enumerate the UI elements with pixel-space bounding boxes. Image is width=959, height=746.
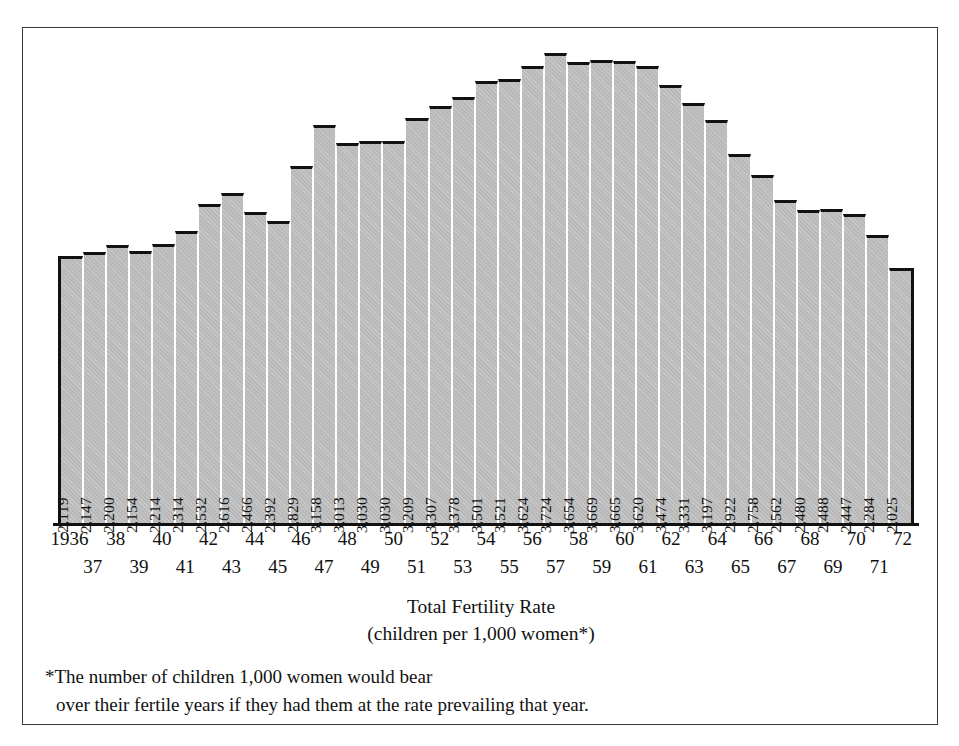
x-tick-1971: 71 (853, 556, 905, 578)
bar-1970: 2,447 (843, 214, 866, 523)
footnote: *The number of children 1,000 women woul… (45, 663, 905, 719)
footnote-line-2: over their fertile years if they had the… (45, 691, 905, 719)
bar-1953: 3,378 (452, 97, 475, 523)
bar-1957: 3,724 (544, 53, 567, 523)
bar-value-label: 2,314 (169, 497, 187, 533)
bar-value-label: 3,307 (422, 497, 440, 533)
bar-1948: 3,013 (336, 143, 359, 523)
bar-value-label: 3,030 (353, 497, 371, 533)
bar-1969: 2,488 (820, 209, 843, 523)
bar-value-label: 3,624 (514, 497, 532, 533)
bar-1950: 3,030 (382, 141, 405, 523)
bar-1956: 3,624 (521, 66, 544, 523)
bar-value-label: 2,829 (284, 497, 302, 533)
bar-value-label: 2,562 (767, 497, 785, 533)
bar-value-label: 3,209 (399, 497, 417, 533)
bar-value-label: 2,025 (883, 497, 901, 533)
bar-value-label: 3,013 (330, 497, 348, 533)
bar-1943: 2,616 (221, 193, 244, 523)
x-tick-1945: 45 (252, 556, 304, 578)
bar-value-label: 2,532 (192, 497, 210, 533)
x-axis-tick-labels: 1936373839404142434445464748495051525354… (58, 528, 914, 586)
x-tick-1947: 47 (298, 556, 350, 578)
x-tick-1949: 49 (344, 556, 396, 578)
bar-series: 2,1192,1472,2002,1542,2142,3142,5322,616… (58, 31, 914, 523)
bar-1971: 2,284 (866, 235, 889, 523)
bar-value-label: 2,284 (860, 497, 878, 533)
x-tick-1969: 69 (807, 556, 859, 578)
bar-value-label: 2,447 (837, 497, 855, 533)
bar-1966: 2,758 (751, 175, 774, 523)
chart-figure-frame: 2,1192,1472,2002,1542,2142,3142,5322,616… (22, 27, 938, 725)
bar-1961: 3,620 (636, 66, 659, 523)
bar-1962: 3,474 (659, 85, 682, 523)
bar-value-label: 2,147 (77, 497, 95, 533)
bar-value-label: 2,922 (721, 497, 739, 533)
footnote-line-1: *The number of children 1,000 women woul… (45, 663, 905, 691)
bar-1958: 3,654 (567, 62, 590, 523)
bar-1951: 3,209 (405, 118, 428, 523)
bar-1938: 2,200 (106, 245, 129, 523)
x-tick-1955: 55 (483, 556, 535, 578)
bar-1968: 2,480 (797, 210, 820, 523)
bar-value-label: 3,724 (537, 497, 555, 533)
bar-1945: 2,392 (267, 221, 290, 523)
bar-1942: 2,532 (198, 204, 221, 523)
x-tick-1957: 57 (529, 556, 581, 578)
bar-value-label: 2,616 (215, 497, 233, 533)
bar-value-label: 3,331 (675, 497, 693, 533)
bar-value-label: 3,665 (606, 497, 624, 533)
bar-1940: 2,214 (152, 244, 175, 523)
bar-1947: 3,158 (313, 125, 336, 523)
bar-value-label: 3,030 (376, 497, 394, 533)
x-tick-1943: 43 (206, 556, 258, 578)
bar-value-label: 2,214 (146, 497, 164, 533)
plot-area: 2,1192,1472,2002,1542,2142,3142,5322,616… (58, 31, 914, 523)
x-tick-1941: 41 (159, 556, 211, 578)
bar-1952: 3,307 (429, 106, 452, 523)
bar-1959: 3,669 (590, 60, 613, 523)
bar-value-label: 2,758 (744, 497, 762, 533)
bar-1946: 2,829 (290, 166, 313, 523)
x-tick-1961: 61 (622, 556, 674, 578)
x-tick-1959: 59 (576, 556, 628, 578)
axis-title: Total Fertility Rate (children per 1,000… (23, 593, 939, 647)
bar-value-label: 2,466 (238, 497, 256, 533)
bar-value-label: 3,501 (468, 497, 486, 533)
bar-1936: 2,119 (58, 256, 83, 523)
bar-1949: 3,030 (359, 141, 382, 523)
bar-value-label: 3,474 (652, 497, 670, 533)
axis-title-line2: (children per 1,000 women*) (23, 620, 939, 647)
bar-value-label: 3,521 (491, 497, 509, 533)
bar-1965: 2,922 (728, 154, 751, 523)
bar-1963: 3,331 (682, 103, 705, 523)
bar-value-label: 3,378 (445, 497, 463, 533)
bar-value-label: 3,620 (629, 497, 647, 533)
bar-value-label: 3,158 (307, 497, 325, 533)
bar-value-label: 2,480 (791, 497, 809, 533)
x-tick-1963: 63 (668, 556, 720, 578)
x-tick-1953: 53 (437, 556, 489, 578)
bar-1954: 3,501 (475, 81, 498, 523)
bar-1964: 3,197 (705, 120, 728, 523)
bar-value-label: 2,488 (814, 497, 832, 533)
bar-value-label: 3,669 (583, 497, 601, 533)
x-tick-1965: 65 (714, 556, 766, 578)
bar-1941: 2,314 (175, 231, 198, 523)
x-tick-1939: 39 (113, 556, 165, 578)
bar-1955: 3,521 (498, 79, 521, 523)
axis-title-line1: Total Fertility Rate (23, 593, 939, 620)
bar-1960: 3,665 (613, 61, 636, 523)
bar-1967: 2,562 (774, 200, 797, 523)
x-tick-1967: 67 (761, 556, 813, 578)
bar-value-label: 2,119 (54, 497, 72, 532)
bar-value-label: 2,392 (261, 497, 279, 533)
bar-1939: 2,154 (129, 251, 152, 523)
bar-value-label: 3,197 (698, 497, 716, 533)
bar-value-label: 2,154 (123, 497, 141, 533)
bar-value-label: 3,654 (560, 497, 578, 533)
x-tick-1937: 37 (67, 556, 119, 578)
bar-1972: 2,025 (889, 268, 914, 523)
x-tick-1951: 51 (391, 556, 443, 578)
bar-1944: 2,466 (244, 212, 267, 523)
